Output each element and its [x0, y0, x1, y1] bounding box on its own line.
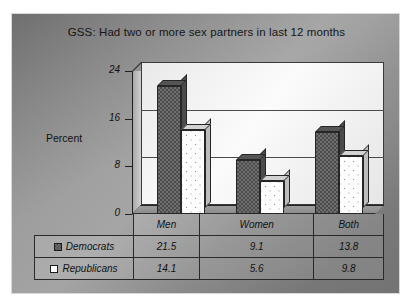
chart-title: GSS: Had two or more sex partners in las…	[12, 26, 401, 38]
table-row-democrats: Democrats 21.5 9.1 13.8	[35, 236, 384, 258]
bar-front-face	[181, 130, 205, 214]
y-tick-label-24: 24	[94, 64, 120, 75]
table-category-header-row: Men Women Both	[35, 214, 384, 236]
legend-label-democrats: Democrats	[66, 241, 114, 252]
chart-data-table: Men Women Both Democrats 21.5 9.1 13.8 R…	[34, 214, 384, 280]
legend-swatch-republicans	[50, 265, 58, 273]
value-democrats-women: 9.1	[200, 236, 314, 258]
legend-item-democrats: Democrats	[35, 236, 134, 258]
bar-front-face	[260, 181, 284, 214]
legend-swatch-democrats	[54, 243, 62, 251]
plot-area: 24 16 8 0	[132, 62, 384, 214]
bar-front-face	[236, 160, 260, 214]
chart-left-wall	[132, 71, 141, 214]
y-tick-label-8: 8	[94, 159, 120, 170]
y-axis-line	[132, 71, 133, 214]
tick-8	[125, 166, 132, 167]
bar-side-face	[205, 118, 211, 208]
bar-front-face	[157, 86, 181, 214]
table-header-spacer	[35, 214, 134, 236]
value-republicans-men: 14.1	[134, 258, 200, 280]
value-democrats-men: 21.5	[134, 236, 200, 258]
bar-democrats-men	[157, 86, 181, 214]
bar-front-face	[339, 156, 363, 214]
legend-label-republicans: Republicans	[62, 263, 117, 274]
tick-16	[125, 119, 132, 120]
bar-front-face	[315, 132, 339, 214]
bar-democrats-women	[236, 160, 260, 214]
y-tick-label-16: 16	[94, 112, 120, 123]
table-row-republicans: Republicans 14.1 5.6 9.8	[35, 258, 384, 280]
bar-democrats-both	[315, 132, 339, 214]
slide-canvas: GSS: Had two or more sex partners in las…	[11, 13, 400, 294]
category-label-men: Men	[134, 214, 200, 236]
category-label-women: Women	[200, 214, 314, 236]
category-label-both: Both	[314, 214, 384, 236]
value-republicans-both: 9.8	[314, 258, 384, 280]
value-republicans-women: 5.6	[200, 258, 314, 280]
bar-republicans-women	[260, 181, 284, 214]
bar-republicans-men	[181, 130, 205, 214]
bar-republicans-both	[339, 156, 363, 214]
tick-24	[125, 71, 132, 72]
legend-item-republicans: Republicans	[35, 258, 134, 280]
y-axis-label: Percent	[46, 132, 82, 144]
value-democrats-both: 13.8	[314, 236, 384, 258]
